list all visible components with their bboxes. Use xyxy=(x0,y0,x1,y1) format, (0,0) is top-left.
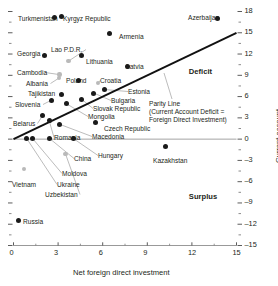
data-point xyxy=(64,101,69,106)
parity-note-line-3: Foreign Direct Investment) xyxy=(149,116,227,124)
parity-note-line-1: Parity Line xyxy=(149,100,227,108)
point-label: Russia xyxy=(23,218,43,225)
point-label: Slovak Republic xyxy=(93,105,140,112)
point-label: Romania xyxy=(54,134,80,141)
parity-note-line-2: (Current Account Deficit = xyxy=(149,108,227,116)
data-point xyxy=(163,144,168,149)
data-point xyxy=(49,98,54,103)
y-axis-title: Current account xyxy=(274,109,278,163)
point-label: Ukraine xyxy=(57,181,80,188)
deficit-region-label: Deficit xyxy=(189,67,212,76)
point-label: Belarus xyxy=(13,120,35,127)
point-label: Slovenia xyxy=(15,101,40,108)
data-point xyxy=(91,91,96,96)
point-labels: TurkmenistanKyrgyz RepublicAzerbaijanArm… xyxy=(0,0,278,286)
data-point xyxy=(66,59,70,63)
point-label: Czech Republic xyxy=(104,125,150,132)
scatter-chart: 036912151815129630–3–6–9–12–15 Turkmenis… xyxy=(0,0,278,286)
parity-line-annotation: Parity Line (Current Account Deficit = F… xyxy=(149,100,227,124)
data-point xyxy=(102,87,107,92)
data-point xyxy=(47,118,52,123)
point-label: Tajikistan xyxy=(28,90,55,97)
data-point xyxy=(93,120,98,125)
point-label: Kazakhstan xyxy=(153,157,187,164)
point-label: Mongolia xyxy=(88,113,115,120)
point-label: Georgia xyxy=(17,50,40,57)
point-label: Bulgaria xyxy=(111,97,135,104)
point-label: Lithuania xyxy=(86,58,113,65)
point-label: Lao P.D.R. xyxy=(51,46,82,53)
point-label: Vietnam xyxy=(12,181,36,188)
point-label: Estonia xyxy=(128,88,150,95)
data-point xyxy=(42,53,47,58)
data-point xyxy=(57,76,61,80)
data-point xyxy=(59,92,64,97)
data-point xyxy=(16,218,21,223)
data-point xyxy=(47,136,52,141)
point-label: Kyrgyz Republic xyxy=(63,15,111,22)
point-label: Croatia xyxy=(100,77,121,84)
point-label: China xyxy=(74,155,91,162)
x-axis-title: Net foreign direct investment xyxy=(73,268,170,277)
data-point xyxy=(79,97,84,102)
data-point xyxy=(24,136,29,141)
data-point xyxy=(57,122,62,127)
data-point xyxy=(96,81,100,85)
surplus-region-label: Surplus xyxy=(189,192,217,201)
data-point xyxy=(40,113,45,118)
point-label: Albania xyxy=(26,80,48,87)
data-point xyxy=(107,31,112,36)
point-label: Hungary xyxy=(98,152,123,159)
data-point xyxy=(215,16,220,21)
point-label: Cambodia xyxy=(17,69,47,76)
point-label: Uzbekistan xyxy=(45,191,78,198)
data-point xyxy=(30,136,35,141)
point-label: Macedonia xyxy=(92,133,124,140)
data-point xyxy=(63,152,67,156)
data-point xyxy=(22,167,26,171)
point-label: Moldova xyxy=(62,170,87,177)
data-point xyxy=(79,53,84,58)
point-label: Armenia xyxy=(119,33,144,40)
